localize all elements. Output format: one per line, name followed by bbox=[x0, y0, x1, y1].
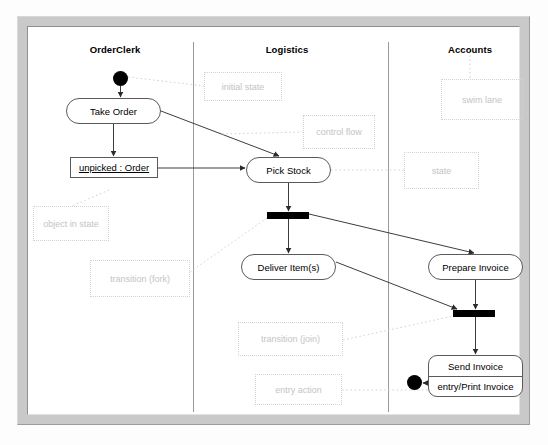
state-prepare-invoice-label: Prepare Invoice bbox=[442, 262, 509, 273]
state-pick-stock[interactable]: Pick Stock bbox=[246, 157, 331, 183]
annotation-initial-state: initial state bbox=[204, 72, 282, 101]
state-deliver-items-label: Deliver Item(s) bbox=[258, 262, 320, 273]
lane-header-logistics: Logistics bbox=[266, 44, 309, 55]
diagram-page: OrderClerk Logistics Accounts Take Order… bbox=[0, 0, 548, 445]
annotation-swim-lane-label: swim lane bbox=[462, 95, 502, 105]
annotation-entry-action-label: entry action bbox=[275, 385, 322, 395]
annotation-control-flow: control flow bbox=[303, 115, 375, 149]
object-unpicked-order[interactable]: unpicked : Order bbox=[70, 157, 158, 178]
annotation-swim-lane: swim lane bbox=[441, 79, 523, 120]
annotation-control-flow-label: control flow bbox=[316, 127, 362, 137]
fork-bar[interactable] bbox=[267, 212, 309, 219]
annotation-state: state bbox=[404, 152, 479, 189]
state-take-order[interactable]: Take Order bbox=[66, 98, 161, 124]
annotation-transition-fork: transition (fork) bbox=[90, 260, 190, 297]
state-send-invoice[interactable]: Send Invoice entry/Print Invoice bbox=[428, 355, 523, 397]
annotation-transition-join: transition (join) bbox=[238, 322, 343, 356]
annotation-transition-fork-label: transition (fork) bbox=[110, 274, 170, 284]
state-deliver-items[interactable]: Deliver Item(s) bbox=[241, 254, 336, 280]
initial-state-node[interactable] bbox=[113, 71, 128, 86]
lane-header-accounts: Accounts bbox=[448, 44, 492, 55]
state-send-invoice-title: Send Invoice bbox=[429, 356, 522, 377]
lane-header-orderclerk: OrderClerk bbox=[90, 44, 141, 55]
annotation-entry-action: entry action bbox=[255, 374, 342, 405]
object-unpicked-order-label: unpicked : Order bbox=[79, 162, 149, 173]
annotation-transition-join-label: transition (join) bbox=[261, 334, 320, 344]
state-prepare-invoice[interactable]: Prepare Invoice bbox=[428, 254, 523, 280]
annotation-object-in-state-label: object in state bbox=[43, 219, 99, 229]
final-state-node[interactable] bbox=[407, 375, 422, 390]
join-bar[interactable] bbox=[453, 310, 495, 317]
state-take-order-label: Take Order bbox=[90, 106, 137, 117]
annotation-state-label: state bbox=[432, 166, 452, 176]
state-pick-stock-label: Pick Stock bbox=[266, 165, 310, 176]
state-send-invoice-entry-action: entry/Print Invoice bbox=[429, 377, 522, 396]
annotation-object-in-state: object in state bbox=[33, 206, 109, 241]
annotation-initial-state-label: initial state bbox=[222, 82, 265, 92]
